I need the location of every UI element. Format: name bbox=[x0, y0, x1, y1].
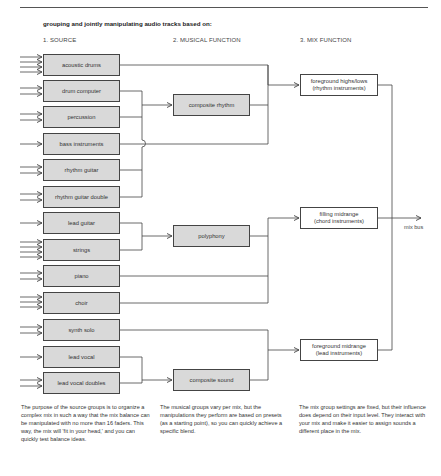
source-group-bass-instruments: bass instruments bbox=[43, 133, 120, 155]
note-mix-groups: The mix group settings are fixed, but th… bbox=[299, 403, 429, 435]
mix-group-subtitle: (lead instruments) bbox=[316, 350, 362, 357]
musical-group-composite-rhythm: composite rhythm bbox=[173, 94, 250, 116]
source-group-lead-vocal: lead vocal bbox=[43, 346, 120, 368]
musical-group-composite-sound: composite sound bbox=[173, 369, 250, 391]
source-group-acoustic-drums: acoustic drums bbox=[43, 54, 120, 76]
note-musical-groups: The musical groups vary per mix, but the… bbox=[160, 403, 290, 435]
mix-group-subtitle: (rhythm instruments) bbox=[312, 85, 365, 92]
mix-group-foreground-midrange: foreground midrange (lead instruments) bbox=[300, 339, 378, 361]
note-source-groups: The purpose of the source groups is to o… bbox=[21, 403, 151, 443]
mix-group-title: filling midrange bbox=[320, 211, 359, 218]
source-group-rhythm-guitar-double: rhythm guitar double bbox=[43, 186, 120, 208]
source-group-rhythm-guitar: rhythm guitar bbox=[43, 159, 120, 181]
mix-group-filling-midrange: filling midrange (chord instruments) bbox=[300, 207, 378, 229]
source-group-synth-solo: synth solo bbox=[43, 319, 120, 341]
source-group-percussion: percussion bbox=[43, 106, 120, 128]
musical-group-polyphony: polyphony bbox=[173, 225, 250, 247]
mix-group-title: foreground midrange bbox=[312, 343, 366, 350]
source-group-drum-computer: drum computer bbox=[43, 80, 120, 102]
mix-group-foreground-highs-lows: foreground highs/lows (rhythm instrument… bbox=[300, 74, 378, 96]
source-group-choir: choir bbox=[43, 292, 120, 314]
mix-group-subtitle: (chord instruments) bbox=[314, 218, 364, 225]
source-group-piano: piano bbox=[43, 265, 120, 287]
source-group-strings: strings bbox=[43, 239, 120, 261]
mix-group-title: foreground highs/lows bbox=[311, 78, 368, 85]
source-group-lead-vocal-doubles: lead vocal doubles bbox=[43, 372, 120, 394]
mix-bus-label: mix bus bbox=[404, 224, 423, 230]
source-group-lead-guitar: lead guitar bbox=[43, 212, 120, 234]
